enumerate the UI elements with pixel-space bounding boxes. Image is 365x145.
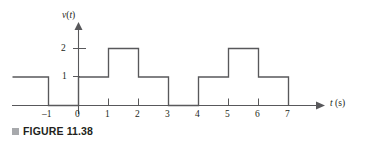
square-bullet-icon (12, 128, 19, 135)
x-tick-label-5: 5 (225, 110, 230, 120)
x-tick-label-6: 6 (255, 110, 260, 120)
y-tick-label-1: 1 (62, 72, 67, 82)
x-tick-label-1: 1 (105, 110, 110, 120)
waveform-curve (13, 49, 289, 106)
y-axis-label-paren-close: ) (72, 10, 75, 20)
y-axis-label: v(t) (62, 11, 75, 21)
x-tick-label-3: 3 (165, 110, 170, 120)
waveform-plot (0, 0, 365, 145)
x-tick-label-0: 0 (75, 110, 80, 120)
y-tick-label-2: 2 (61, 44, 66, 54)
x-axis-label: t (s) (330, 99, 345, 109)
x-tick-label-minus1: –1 (42, 110, 52, 120)
x-axis-label-unit-text: (s) (335, 98, 345, 108)
figure-caption: FIGURE 11.38 (12, 126, 93, 137)
figure-container: v(t) t (s) 2 1 –1 0 1 2 3 4 5 6 7 FIGURE… (0, 0, 365, 145)
y-axis-arrow-icon (75, 22, 83, 30)
x-tick-label-2: 2 (135, 110, 140, 120)
x-tick-label-7: 7 (285, 110, 290, 120)
x-axis-arrow-icon (316, 102, 325, 110)
y-tick-marks (73, 49, 86, 77)
figure-caption-text: FIGURE 11.38 (23, 126, 93, 137)
x-tick-label-4: 4 (195, 110, 200, 120)
